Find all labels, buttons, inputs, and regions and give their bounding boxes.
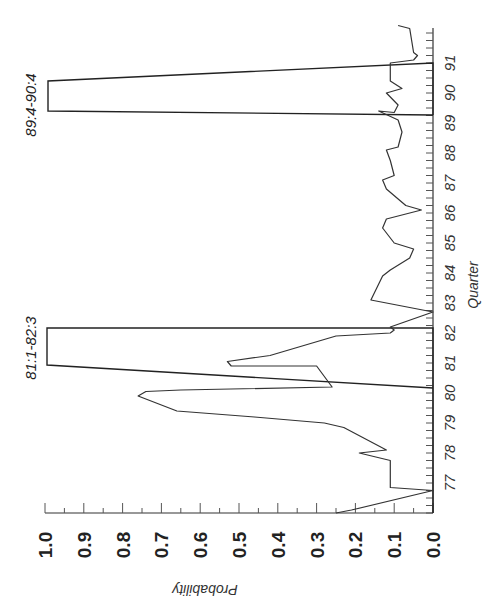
quarter-tick-label: 84 [441, 265, 458, 282]
quarter-tick-label: 89 [441, 114, 458, 131]
quarter-tick-label: 81 [441, 355, 458, 372]
probability-line [138, 26, 433, 514]
prob-tick-label: 0.5 [229, 531, 250, 558]
annotation-89-90: 89:4-90:4 [22, 73, 39, 136]
annotation-81-82: 81:1-82:3 [22, 316, 39, 380]
regime-boxes [47, 63, 433, 513]
probability-axis: 1.00.90.80.70.60.50.40.30.20.10.0 [35, 503, 444, 558]
x-axis-title: Quarter [465, 260, 481, 309]
quarter-tick-label: 78 [441, 444, 458, 461]
quarter-tick-label: 87 [441, 174, 458, 191]
quarter-tick-label: 82 [441, 324, 458, 341]
quarter-axis: 777879808182838485868788899091 [426, 28, 458, 513]
prob-tick-label: 0.1 [384, 531, 405, 558]
prob-tick-label: 0.4 [268, 531, 289, 558]
quarter-tick-label: 91 [441, 55, 458, 72]
quarter-tick-label: 83 [441, 294, 458, 311]
prob-tick-label: 0.2 [345, 532, 366, 558]
prob-tick-label: 1.0 [35, 532, 56, 558]
quarter-tick-label: 86 [441, 204, 458, 221]
prob-tick-label: 0.9 [74, 532, 95, 558]
y-axis-title: Probability [171, 582, 237, 598]
regime-box-89-90 [48, 63, 433, 115]
quarter-tick-label: 90 [441, 84, 458, 101]
prob-tick-label: 0.3 [307, 532, 328, 558]
axis-labels: ProbabilityQuarter81:1-82:389:4-90:4 [22, 73, 481, 598]
prob-tick-label: 0.6 [190, 532, 211, 558]
quarter-tick-label: 77 [441, 474, 458, 491]
probability-chart: 1.00.90.80.70.60.50.40.30.20.10.0 777879… [0, 0, 488, 605]
quarter-tick-label: 80 [441, 384, 458, 401]
prob-tick-label: 0.7 [151, 532, 172, 558]
prob-tick-label: 0.0 [423, 532, 444, 558]
quarter-tick-label: 88 [441, 144, 458, 161]
quarter-tick-label: 85 [441, 234, 458, 251]
prob-tick-label: 0.8 [113, 532, 134, 558]
quarter-tick-label: 79 [441, 414, 458, 431]
regime-box-81-82 [47, 328, 433, 513]
